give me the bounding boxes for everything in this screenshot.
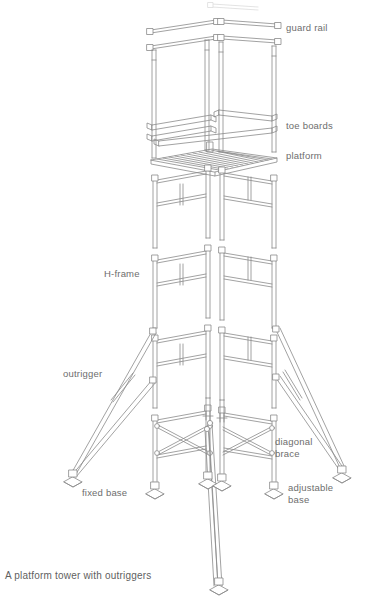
label-h-frame: H-frame	[104, 268, 140, 280]
label-fixed-base: fixed base	[82, 487, 127, 499]
platform-tower-drawing	[0, 0, 372, 597]
label-outrigger: outrigger	[63, 368, 102, 380]
label-adjustable-base: adjustable base	[288, 482, 333, 505]
figure-container: guard rail toe boards platform H-frame o…	[0, 0, 372, 597]
figure-caption: A platform tower with outriggers	[5, 570, 151, 581]
label-diagonal-brace: diagonal brace	[275, 436, 313, 459]
label-guard-rail: guard rail	[286, 22, 328, 34]
label-toe-boards: toe boards	[286, 120, 333, 132]
label-platform: platform	[286, 150, 322, 162]
